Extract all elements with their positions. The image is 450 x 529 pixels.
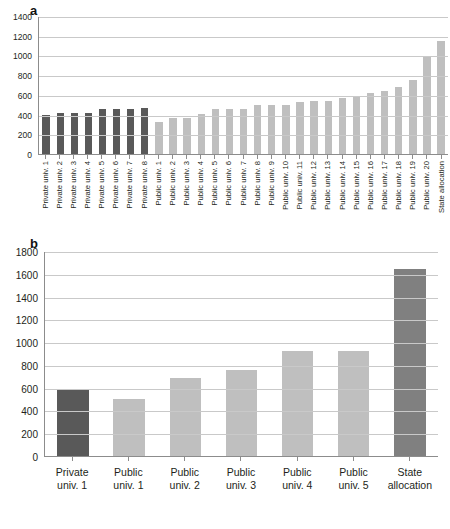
x-tick-mark — [409, 457, 410, 461]
x-axis-label-text: Public univ. 4 — [197, 161, 205, 206]
bar — [395, 87, 402, 154]
x-axis-label-line: univ. 2 — [157, 479, 213, 492]
bar — [57, 390, 88, 456]
x-tick-cell — [100, 457, 156, 461]
x-axis-label-text: Public univ. 2 — [169, 161, 177, 206]
bar — [423, 56, 430, 154]
x-axis-label-text: Public univ. 6 — [225, 161, 233, 206]
x-axis-label: Public univ. 17 — [377, 159, 391, 231]
x-axis-label-line: univ. 5 — [325, 479, 381, 492]
chart-a-plot-area — [38, 17, 448, 155]
bar — [170, 378, 201, 456]
chart-b-x-tick-row — [44, 457, 438, 461]
x-axis-label-text: Public univ. 11 — [296, 161, 304, 209]
bar — [409, 80, 416, 154]
x-tick-mark — [128, 457, 129, 461]
gridline — [45, 366, 438, 367]
x-axis-label: Public univ. 11 — [293, 159, 307, 231]
y-axis-tick-label: 1600 — [16, 269, 38, 280]
x-axis-label-text: Public univ. 12 — [310, 161, 318, 210]
bar — [437, 41, 444, 154]
x-axis-label-text: Private univ. 3 — [70, 161, 78, 209]
chart-b-bar-group — [45, 252, 438, 456]
y-axis-tick-label: 400 — [21, 406, 38, 417]
bar — [381, 91, 388, 154]
x-axis-label-text: Public univ. 10 — [282, 161, 290, 210]
x-axis-label: Public univ. 19 — [406, 159, 420, 231]
x-axis-label-text: Private univ. 2 — [56, 161, 64, 209]
x-tick-mark — [72, 457, 73, 461]
gridline — [45, 411, 438, 412]
bar — [310, 101, 317, 154]
x-axis-label-text: State allocation — [438, 161, 446, 213]
y-axis-tick-label: 0 — [27, 150, 32, 160]
x-tick-mark — [353, 457, 354, 461]
x-axis-label-text: Private univ. 7 — [126, 161, 134, 209]
bar-slot — [213, 252, 269, 456]
x-axis-label: Public univ. 14 — [335, 159, 349, 231]
gridline — [39, 37, 448, 38]
x-axis-label-text: Public univ. 9 — [268, 161, 276, 206]
x-axis-label: Privateuniv. 1 — [44, 466, 100, 492]
bar-slot — [157, 252, 213, 456]
x-axis-label: Public univ. 6 — [222, 159, 236, 231]
x-axis-label-text: Public univ. 5 — [211, 161, 219, 206]
gridline — [45, 320, 438, 321]
y-axis-tick-label: 200 — [18, 130, 32, 140]
chart-b-plot-area — [44, 252, 438, 457]
x-axis-label: Public univ. 10 — [278, 159, 292, 231]
bar — [254, 105, 261, 154]
bar — [42, 115, 49, 154]
bar — [339, 98, 346, 154]
x-tick-cell — [325, 457, 381, 461]
panel-label-a: a — [30, 4, 450, 17]
gridline — [45, 298, 438, 299]
x-axis-label-text: Public univ. 3 — [183, 161, 191, 206]
y-axis-tick-label: 1800 — [16, 247, 38, 258]
gridline — [45, 275, 438, 276]
x-axis-label: Stateallocation — [382, 466, 438, 492]
x-tick-cell — [382, 457, 438, 461]
x-axis-label: Private univ. 6 — [109, 159, 123, 231]
bar — [325, 101, 332, 154]
x-axis-label-line: Public — [157, 466, 213, 479]
x-axis-label-line: Public — [269, 466, 325, 479]
chart-b-plot-row: 180016001400120010008006004002000 — [0, 252, 450, 457]
bar-slot — [326, 252, 382, 456]
x-axis-label: Private univ. 5 — [95, 159, 109, 231]
x-axis-label: Public univ. 1 — [151, 159, 165, 231]
y-axis-tick-label: 1200 — [13, 32, 32, 42]
x-axis-label: Publicuniv. 4 — [269, 466, 325, 492]
x-axis-label-text: Public univ. 19 — [409, 161, 417, 210]
x-axis-label: State allocation — [434, 159, 448, 231]
bar — [57, 113, 64, 154]
y-axis-tick-label: 600 — [18, 91, 32, 101]
x-axis-label: Private univ. 8 — [137, 159, 151, 231]
bar-slot — [45, 252, 101, 456]
chart-a-y-axis: 1400120010008006004002000 — [0, 17, 38, 155]
y-axis-tick-label: 800 — [21, 360, 38, 371]
bar — [353, 96, 360, 154]
x-axis-label-line: univ. 4 — [269, 479, 325, 492]
x-axis-label-line: Private — [44, 466, 100, 479]
chart-b-y-axis: 180016001400120010008006004002000 — [0, 252, 44, 457]
panel-label-b: b — [30, 237, 450, 250]
gridline — [39, 76, 448, 77]
x-axis-label-text: Public univ. 16 — [367, 161, 375, 210]
x-axis-label-line: State — [382, 466, 438, 479]
x-axis-label: Private univ. 4 — [80, 159, 94, 231]
gridline — [45, 434, 438, 435]
bar — [367, 93, 374, 154]
gridline — [39, 135, 448, 136]
x-axis-label: Public univ. 7 — [236, 159, 250, 231]
y-axis-tick-label: 1000 — [16, 338, 38, 349]
chart-b-x-axis-labels: Privateuniv. 1Publicuniv. 1Publicuniv. 2… — [44, 466, 438, 492]
x-axis-label: Publicuniv. 5 — [325, 466, 381, 492]
bar-slot — [382, 252, 438, 456]
gridline — [45, 252, 438, 253]
y-axis-tick-label: 0 — [32, 452, 38, 463]
x-axis-label-text: Private univ. 1 — [42, 161, 50, 209]
x-axis-label: Private univ. 3 — [66, 159, 80, 231]
bar — [268, 105, 275, 154]
y-axis-tick-label: 800 — [18, 71, 32, 81]
